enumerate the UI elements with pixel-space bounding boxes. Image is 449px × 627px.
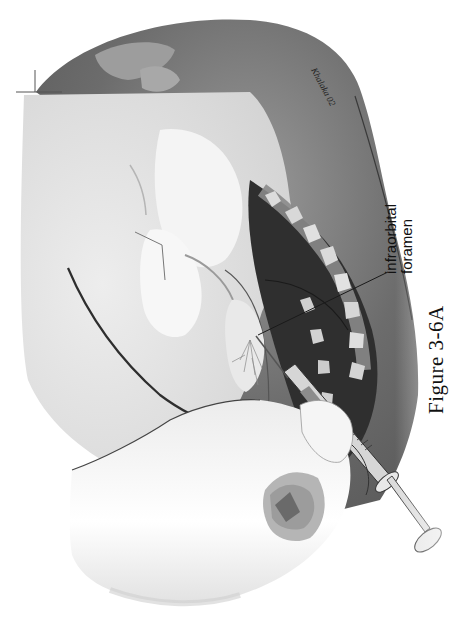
figure-caption: Figure 3-6A: [424, 305, 449, 414]
label-line-1: infraorbital: [383, 204, 399, 274]
label-line-2: foramen: [399, 204, 415, 274]
infraorbital-foramen-label: infraorbital foramen: [383, 204, 415, 274]
